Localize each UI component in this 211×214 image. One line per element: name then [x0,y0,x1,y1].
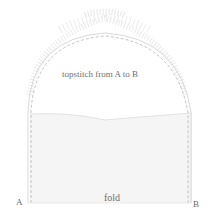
fold-label: fold [104,192,120,203]
instruction-label: topstitch from A to B [62,69,138,79]
point-b-label: B [193,199,199,209]
point-a-label: A [16,197,23,207]
diagram-drawing [0,0,211,214]
sewing-diagram: topstitch from A to B fold A B [0,0,211,214]
lower-panel [30,113,192,203]
